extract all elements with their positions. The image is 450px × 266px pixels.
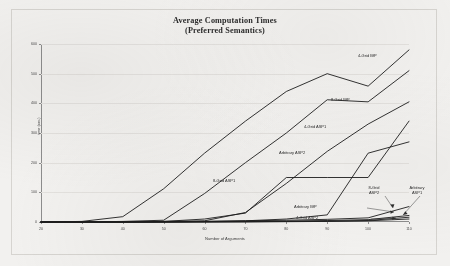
annotation-8grid-asp2-line2: ASP2 [369, 190, 379, 195]
annotation-8grid-asp2: 8-Grid ASP2 [361, 186, 387, 196]
annotation-4grid-bfp: 4-Grid BfP [358, 54, 377, 59]
annotation-4grid-asp2: 4-Grid ASP2 [296, 216, 318, 221]
chart-page: Average Computation Times (Preferred Sem… [0, 0, 450, 266]
annotation-8grid-bfp: 8-Grid BfP [331, 98, 350, 103]
annotation-arbitrary-bfp: Arbitrary BfP [294, 205, 317, 210]
annotation-leaders [0, 0, 450, 266]
annotation-arbitrary-asp2: Arbitrary ASP2 [279, 151, 305, 156]
annotation-4grid-asp1: 4-Grid ASP1 [304, 125, 326, 130]
annotation-arbitrary-asp1: Arbitrary ASP1 [402, 186, 432, 196]
annotation-arbitrary-asp1-line2: ASP1 [412, 190, 422, 195]
annotation-8grid-asp1: 8-Grid ASP1 [213, 179, 235, 184]
